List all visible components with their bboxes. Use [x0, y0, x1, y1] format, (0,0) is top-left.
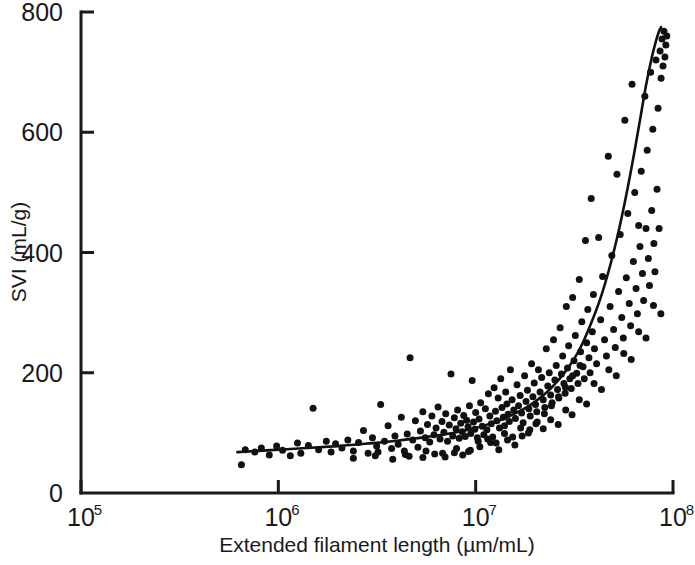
scatter-plot-figure: 0200400600800 105106107108 Extended fila…: [0, 0, 695, 565]
data-point: [350, 455, 357, 462]
data-point: [476, 416, 483, 423]
data-point: [451, 449, 458, 456]
data-point: [629, 81, 636, 88]
data-point: [527, 413, 534, 420]
x-tick-label-1e5: 105: [67, 501, 102, 531]
data-point: [568, 385, 575, 392]
data-point: [497, 375, 504, 382]
y-tick-label-200: 200: [21, 359, 63, 387]
data-point: [238, 461, 245, 468]
data-point: [581, 375, 588, 382]
data-point: [491, 384, 498, 391]
data-point: [406, 453, 413, 460]
data-point: [597, 316, 604, 323]
data-point: [426, 438, 433, 445]
data-point: [506, 418, 513, 425]
data-point: [643, 334, 650, 341]
data-point: [372, 452, 379, 459]
data-point: [477, 399, 484, 406]
data-point: [590, 291, 597, 298]
data-point: [631, 189, 638, 196]
data-point: [495, 446, 502, 453]
data-point: [548, 402, 555, 409]
data-point: [550, 336, 557, 343]
data-point: [633, 285, 640, 292]
data-point: [433, 425, 440, 432]
svg-text:7: 7: [488, 501, 496, 518]
data-point: [654, 186, 661, 193]
data-point: [574, 380, 581, 387]
data-point: [484, 435, 491, 442]
y-tick-label-800: 800: [21, 0, 63, 26]
data-point: [501, 430, 508, 437]
data-point: [559, 352, 566, 359]
data-point: [538, 374, 545, 381]
data-point: [328, 449, 335, 456]
data-point: [582, 237, 589, 244]
data-point: [463, 417, 470, 424]
data-point: [493, 440, 500, 447]
data-point: [587, 369, 594, 376]
data-point: [657, 310, 664, 317]
data-point: [650, 302, 657, 309]
data-point: [424, 421, 431, 428]
data-point: [467, 447, 474, 454]
axes-group: [81, 12, 673, 493]
data-point: [511, 441, 518, 448]
data-point: [605, 366, 612, 373]
data-point: [391, 432, 398, 439]
data-point: [577, 362, 584, 369]
data-point: [414, 444, 421, 451]
data-point: [584, 306, 591, 313]
data-point: [517, 425, 524, 432]
data-point: [639, 270, 646, 277]
data-point: [628, 356, 635, 363]
data-point: [569, 294, 576, 301]
data-point: [541, 404, 548, 411]
data-point: [557, 324, 564, 331]
data-point: [562, 390, 569, 397]
data-point: [502, 388, 509, 395]
data-point: [612, 344, 619, 351]
svg-text:10: 10: [67, 503, 95, 531]
data-point: [649, 126, 656, 133]
data-point: [572, 332, 579, 339]
data-point: [569, 372, 576, 379]
data-point: [652, 57, 659, 64]
data-point: [523, 398, 530, 405]
svg-text:10: 10: [659, 503, 687, 531]
data-point: [469, 377, 476, 384]
data-point: [492, 408, 499, 415]
y-axis-ticks: [81, 12, 94, 373]
data-point: [651, 268, 658, 275]
data-point: [457, 420, 464, 427]
data-point: [344, 437, 351, 444]
data-point: [583, 401, 590, 408]
data-point: [475, 438, 482, 445]
data-point: [650, 240, 657, 247]
data-point: [593, 360, 600, 367]
data-point: [485, 390, 492, 397]
data-point: [563, 303, 570, 310]
y-tick-label-0: 0: [49, 479, 63, 507]
data-point: [482, 405, 489, 412]
data-point: [466, 402, 473, 409]
data-point: [514, 381, 521, 388]
data-point: [297, 450, 304, 457]
data-point: [613, 171, 620, 178]
chart-canvas: 0200400600800 105106107108 Extended fila…: [0, 0, 695, 565]
data-point: [448, 370, 455, 377]
data-point: [438, 418, 445, 425]
x-axis-ticks: [81, 480, 673, 493]
data-point: [547, 416, 554, 423]
svg-text:6: 6: [291, 501, 299, 518]
data-point: [451, 414, 458, 421]
x-tick-label-1e6: 106: [264, 501, 299, 531]
data-point: [531, 379, 538, 386]
data-point: [431, 450, 438, 457]
data-point: [456, 435, 463, 442]
data-point: [656, 225, 663, 232]
data-point: [446, 422, 453, 429]
data-point: [454, 407, 461, 414]
data-point: [620, 350, 627, 357]
